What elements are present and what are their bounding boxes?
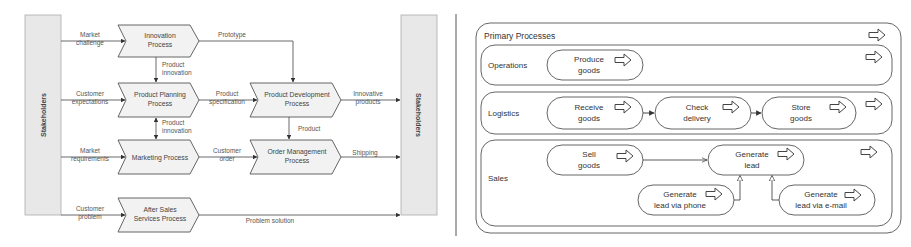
flow-market-requirements-label2: requirements [71,155,110,163]
flow-product-specification-label2: specification [209,98,245,106]
activity-produce-goods[interactable]: Produce goods [547,50,643,80]
activity-lead-via-email-line2: lead via e-mail [795,201,847,210]
activity-lead-via-phone-line1: Generate [663,190,697,199]
flow-prototype [199,41,293,82]
flow-product-innovation-1-label2: innovation [162,69,192,76]
process-product-development[interactable]: Product Development Process [250,83,341,117]
process-innovation-line1: Innovation [144,32,176,39]
flow-customer-problem-label1: Customer [76,205,105,212]
activity-receive-goods[interactable]: Receive goods [547,97,643,129]
flow-market-challenge-label2: challenge [76,39,104,47]
activity-store-goods-line1: Store [791,103,811,112]
process-after-sales-line1: After Sales [143,206,177,213]
flow-problem-solution-label: Problem solution [246,217,295,224]
process-product-development-line1: Product Development [264,91,329,99]
activity-receive-goods-line2: goods [578,114,600,123]
activity-produce-goods-line2: goods [578,66,600,75]
stakeholders-right-label: Stakeholders [415,93,422,137]
process-order-management-line1: Order Management [268,148,327,156]
process-after-sales[interactable]: After Sales Services Process [118,198,199,232]
lane-logistics-label: Logistics [488,109,519,118]
process-marketing[interactable]: Marketing Process [118,140,199,174]
process-product-planning-line2: Process [148,100,173,107]
lane-sales-label: Sales [488,174,508,183]
flow-customer-expectations-label1: Customer [76,90,105,97]
flow-product-innovation-1-label1: Product [162,61,185,68]
activity-generate-lead-line1: Generate [735,150,769,159]
activity-store-goods-line2: goods [790,114,812,123]
activity-lead-via-phone-line2: lead via phone [654,201,707,210]
flow-innovative-products-label1: Innovative [353,90,383,97]
activity-generate-lead[interactable]: Generate lead [708,145,804,175]
flow-customer-order-label1: Customer [213,147,242,154]
right-primary-processes-diagram: Primary Processes Operations Produce goo… [476,23,901,233]
activity-check-delivery[interactable]: Check delivery [655,97,751,129]
flow-customer-problem-label2: problem [78,213,101,221]
process-innovation[interactable]: Innovation Process [118,25,199,57]
activity-check-delivery-line1: Check [686,103,710,112]
lane-operations-label: Operations [488,61,527,70]
activity-lead-via-email[interactable]: Generate lead via e-mail [779,185,875,215]
diagram-canvas: Stakeholders Stakeholders Innovation Pro… [0,0,911,247]
activity-lead-via-email-line1: Generate [804,190,838,199]
stakeholders-left-label: Stakeholders [40,93,47,137]
activity-store-goods[interactable]: Store goods [762,97,856,129]
flow-product-label: Product [298,125,321,132]
flow-shipping-label: Shipping [352,149,378,157]
process-after-sales-line2: Services Process [134,215,187,222]
process-order-management[interactable]: Order Management Process [250,140,341,174]
flow-customer-order-label2: order [219,155,235,162]
activity-check-delivery-line2: delivery [683,114,711,123]
activity-sell-goods[interactable]: Sell goods [547,145,643,175]
process-marketing-line1: Marketing Process [132,154,189,162]
flow-product-innovation-2-label2: innovation [162,127,192,134]
flow-product-specification-label1: Product [216,90,239,97]
process-product-development-line2: Process [285,100,310,107]
process-product-planning[interactable]: Product Planning Process [118,83,199,117]
process-order-management-line2: Process [285,157,310,164]
process-innovation-line2: Process [148,41,173,48]
activity-receive-goods-line1: Receive [575,103,604,112]
activity-sell-goods-line1: Sell [582,150,596,159]
activity-lead-via-phone[interactable]: Generate lead via phone [638,185,734,215]
flow-market-requirements-label1: Market [80,147,100,154]
activity-sell-goods-line2: goods [578,161,600,170]
flow-product-innovation-2-label1: Product [162,119,185,126]
flow-customer-expectations-label2: expectations [72,98,109,106]
activity-generate-lead-line2: lead [744,161,759,170]
lane-operations[interactable] [481,45,892,85]
activity-produce-goods-line1: Produce [574,55,604,64]
primary-processes-title: Primary Processes [484,31,555,41]
flow-innovative-products-label2: products [356,98,382,106]
flow-market-challenge-label1: Market [80,31,100,38]
left-value-chain-diagram: Stakeholders Stakeholders Innovation Pro… [25,15,437,232]
flow-prototype-label: Prototype [218,31,246,39]
process-product-planning-line1: Product Planning [134,91,186,99]
